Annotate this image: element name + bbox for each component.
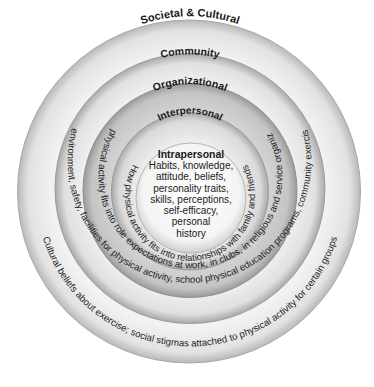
- core-line: self-efficacy,: [134, 205, 248, 216]
- core-line: attitude, beliefs,: [134, 171, 248, 182]
- core-line: skills, perceptions,: [134, 194, 248, 205]
- core-text: Intrapersonal Habits, knowledge, attitud…: [134, 148, 248, 239]
- core-title: Intrapersonal: [134, 148, 248, 160]
- core-line: history: [134, 228, 248, 239]
- core-line: Habits, knowledge,: [134, 160, 248, 171]
- core-line: personality traits,: [134, 183, 248, 194]
- core-line: personal: [134, 216, 248, 227]
